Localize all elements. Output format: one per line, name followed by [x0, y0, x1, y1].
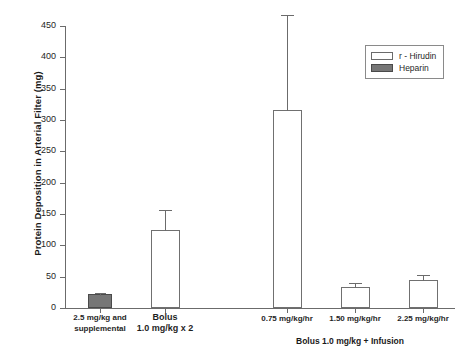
bar-hirudin-1-50 [341, 287, 370, 308]
y-tick-100: 100 [60, 245, 65, 246]
y-tick-350: 350 [60, 89, 65, 90]
y-tick-label-200: 200 [41, 177, 56, 187]
x-axis-label-cat4: 1.50 mg/kg/hr [320, 313, 390, 324]
y-axis-line [65, 26, 66, 308]
x-axis-group-caption: Bolus 1.0 mg/kg + Infusion [250, 336, 450, 346]
y-tick-label-350: 350 [41, 83, 56, 93]
y-tick-label-400: 400 [41, 51, 56, 61]
y-tick-label-150: 150 [41, 208, 56, 218]
plot-area: 450 400 350 300 250 200 150 100 50 0 [65, 26, 455, 308]
errorbar-cap-5 [417, 275, 430, 276]
bar-hirudin-2-25 [409, 280, 438, 308]
x-axis-label-cat5: 2.25 mg/kg/hr [388, 313, 458, 324]
errorbar-line-2 [165, 210, 166, 231]
chart-figure: Protein Deposition in Arterial Filter (m… [0, 0, 465, 357]
y-tick-label-50: 50 [46, 271, 56, 281]
y-tick-250: 250 [60, 151, 65, 152]
y-tick-0: 0 [60, 308, 65, 309]
y-tick-150: 150 [60, 214, 65, 215]
y-tick-200: 200 [60, 183, 65, 184]
y-tick-label-250: 250 [41, 145, 56, 155]
y-tick-label-450: 450 [41, 20, 56, 30]
errorbar-cap-4 [349, 283, 362, 284]
x-axis-line [65, 308, 455, 309]
errorbar-cap-1 [95, 293, 106, 294]
y-tick-300: 300 [60, 120, 65, 121]
bar-heparin-2-5mgkg [88, 294, 112, 308]
y-tick-label-0: 0 [51, 302, 56, 312]
errorbar-cap-3 [281, 15, 294, 16]
y-tick-label-300: 300 [41, 114, 56, 124]
bar-hirudin-0-75 [273, 110, 302, 308]
errorbar-cap-2 [159, 210, 172, 211]
y-tick-400: 400 [60, 57, 65, 58]
x-axis-label-cat3: 0.75 mg/kg/hr [252, 313, 322, 324]
y-tick-450: 450 [60, 26, 65, 27]
bar-hirudin-bolus [151, 230, 180, 308]
y-tick-50: 50 [60, 277, 65, 278]
x-axis-label-cat2: Bolus 1.0 mg/kg x 2 [122, 312, 208, 334]
errorbar-line-3 [287, 15, 288, 111]
y-tick-label-100: 100 [41, 239, 56, 249]
